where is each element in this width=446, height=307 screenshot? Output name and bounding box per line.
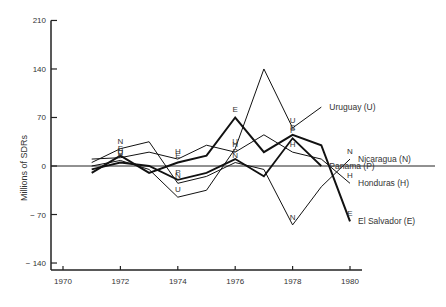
point-marker: H	[290, 140, 296, 149]
x-tick-label: 1970	[54, 277, 72, 286]
point-marker: N	[290, 213, 296, 222]
point-marker: H	[347, 171, 353, 180]
point-marker: E	[118, 144, 123, 153]
line-chart: Millions of SDRs 210140700− 70− 14019701…	[0, 0, 446, 307]
series-lines	[92, 69, 350, 225]
point-marker: E	[233, 105, 238, 114]
series-label: Honduras (H)	[358, 178, 409, 188]
point-marker: H	[232, 140, 238, 149]
y-tick-label: 210	[33, 16, 47, 25]
point-marker: P	[175, 168, 180, 177]
y-tick-label: − 140	[26, 259, 47, 268]
y-tick-label: − 70	[30, 211, 46, 220]
point-marker: N	[347, 147, 353, 156]
series-label: Panama (P)	[329, 161, 375, 171]
series-labels: UUUUUruguay (U)NNNNNNicaragua (N)PPPPPan…	[118, 102, 416, 226]
y-axis-label: Millions of SDRs	[19, 134, 29, 201]
series-line	[92, 69, 322, 197]
x-tick-label: 1972	[112, 277, 130, 286]
x-tick-label: 1974	[169, 277, 187, 286]
x-tick-label: 1980	[341, 277, 359, 286]
y-tick-label: 140	[33, 65, 47, 74]
point-marker: E	[290, 123, 295, 132]
y-tick-label: 70	[37, 113, 46, 122]
series-line	[92, 142, 350, 225]
x-tick-label: 1976	[226, 277, 244, 286]
series-label: El Salvador (E)	[358, 216, 415, 226]
point-marker: E	[175, 151, 180, 160]
point-marker: U	[175, 185, 181, 194]
series-label: Uruguay (U)	[329, 102, 375, 112]
x-tick-label: 1978	[284, 277, 302, 286]
point-marker: E	[347, 209, 352, 218]
y-tick-label: 0	[42, 162, 47, 171]
